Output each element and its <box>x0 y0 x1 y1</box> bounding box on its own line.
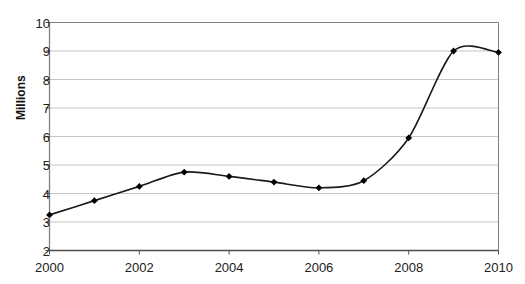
line-chart: Millions 1098765432 20002002200420062008… <box>0 0 525 284</box>
x-tick-label: 2002 <box>125 261 154 274</box>
x-tick-label: 2006 <box>304 261 333 274</box>
x-tick-label: 2008 <box>394 261 423 274</box>
x-tick-label: 2010 <box>484 261 513 274</box>
x-tick-label: 2004 <box>215 261 244 274</box>
x-axis-ticks: 200020022004200620082010 <box>0 0 525 284</box>
x-tick-label: 2000 <box>35 261 64 274</box>
